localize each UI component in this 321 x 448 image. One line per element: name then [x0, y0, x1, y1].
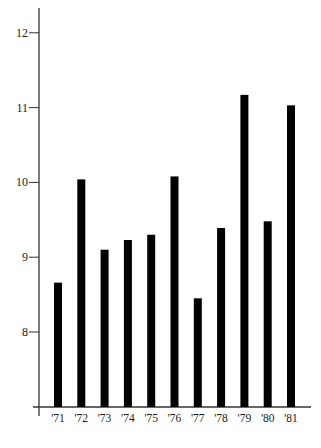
x-tick-label: '79 — [232, 412, 256, 424]
y-tick-label: 8 — [2, 326, 28, 338]
x-tick-label: '72 — [69, 412, 93, 424]
x-tick-label: '77 — [186, 412, 210, 424]
bar-78 — [217, 228, 225, 407]
x-tick-label: '75 — [139, 412, 163, 424]
bar-80 — [264, 221, 272, 407]
bar-75 — [147, 235, 155, 407]
bar-81 — [287, 105, 295, 407]
bar-76 — [171, 176, 179, 407]
x-tick-label: '74 — [116, 412, 140, 424]
y-tick-label: 10 — [2, 176, 28, 188]
bar-74 — [124, 240, 132, 407]
x-tick-label: '76 — [163, 412, 187, 424]
x-tick-label: '71 — [46, 412, 70, 424]
x-tick-label: '78 — [209, 412, 233, 424]
chart-canvas — [0, 0, 321, 448]
bar-77 — [194, 298, 202, 407]
x-tick-label: '73 — [93, 412, 117, 424]
bar-71 — [54, 283, 62, 407]
y-tick-label: 9 — [2, 251, 28, 263]
y-tick-label: 11 — [2, 102, 28, 114]
bar-73 — [101, 250, 109, 407]
bar-79 — [240, 95, 248, 407]
bar-chart: 89101112 '71'72'73'74'75'76'77'78'79'80'… — [0, 0, 321, 448]
bar-72 — [77, 179, 85, 407]
y-tick-label: 12 — [2, 27, 28, 39]
x-tick-label: '80 — [256, 412, 280, 424]
x-tick-label: '81 — [279, 412, 303, 424]
